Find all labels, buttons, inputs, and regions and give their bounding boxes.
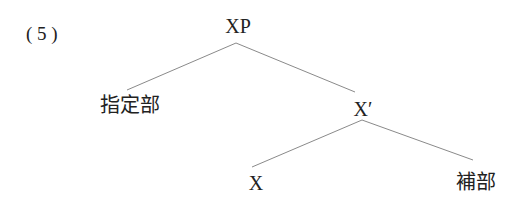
node-complement: 補部 xyxy=(456,172,496,192)
node-x-head: X xyxy=(249,173,263,193)
node-x-bar: X′ xyxy=(354,99,373,119)
node-xp: XP xyxy=(225,16,251,36)
edge-xbar-head xyxy=(252,120,362,167)
edge-xp-specifier xyxy=(127,43,236,90)
tree-edges xyxy=(0,0,530,205)
node-specifier: 指定部 xyxy=(100,95,160,115)
edge-xp-xbar xyxy=(236,43,355,92)
edge-xbar-complement xyxy=(362,120,473,160)
